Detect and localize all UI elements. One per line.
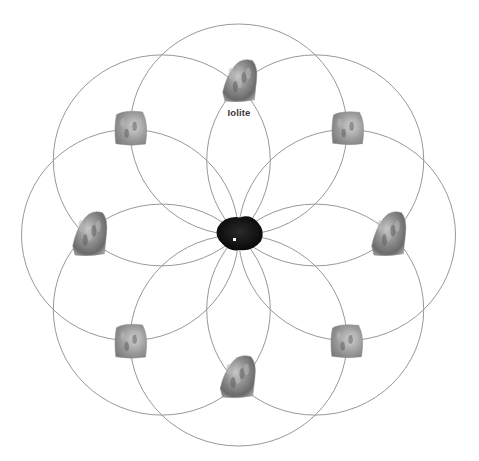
stone-label-iolite: Iolite — [228, 107, 251, 118]
crystal-grid-diagram: Iolite — [0, 0, 479, 461]
stone-icon-right — [372, 212, 406, 256]
central-stone-icon — [216, 216, 262, 250]
stone-icon-bottom-left — [115, 324, 147, 358]
grid-circle — [130, 24, 347, 235]
grid-circle — [130, 235, 347, 446]
grid-circle — [239, 130, 456, 341]
stone-icon-bottom-right — [331, 325, 363, 358]
stone-icon-bottom — [220, 356, 255, 398]
grid-canvas — [0, 0, 479, 461]
stone-icon-left — [73, 212, 107, 256]
grid-circle — [22, 130, 239, 341]
stone-icon-top-left — [115, 111, 147, 145]
stone-icon-top — [223, 60, 257, 102]
stone-icon-top-right — [332, 112, 364, 145]
